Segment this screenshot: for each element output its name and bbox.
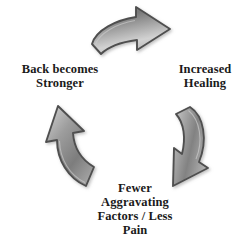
label-line-2: Healing: [163, 76, 247, 90]
label-increased-healing: Increased Healing: [163, 62, 247, 90]
label-line-1: Fewer: [82, 181, 188, 195]
label-line-3: Factors / Less: [82, 209, 188, 223]
label-line-1: Back becomes: [6, 62, 114, 76]
label-line-4: Pain: [82, 223, 188, 237]
label-line-2: Aggravating: [82, 195, 188, 209]
cycle-diagram: Back becomes Stronger Increased Healing …: [0, 0, 249, 245]
arrow-curved-up-left-icon: [46, 106, 94, 186]
label-line-1: Increased: [163, 62, 247, 76]
arrow-top-right-icon: [92, 7, 170, 54]
label-line-2: Stronger: [6, 76, 114, 90]
label-back-becomes-stronger: Back becomes Stronger: [6, 62, 114, 90]
label-fewer-aggravating-factors-less-pain: Fewer Aggravating Factors / Less Pain: [82, 181, 188, 237]
arrow-curved-down-left-icon: [173, 107, 208, 186]
